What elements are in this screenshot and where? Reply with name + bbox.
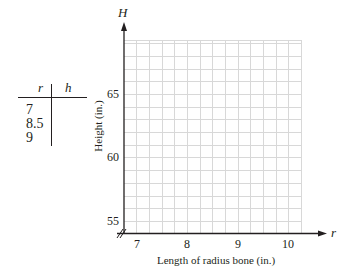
x-tick-9: 9 (235, 237, 241, 252)
y-tick-60: 60 (107, 150, 119, 165)
y-tick-65: 65 (107, 87, 119, 102)
x-axis-variable: r (331, 225, 336, 241)
y-axis-variable: H (118, 5, 127, 21)
x-axis-arrow-icon (318, 231, 327, 237)
x-tick-7: 7 (134, 237, 140, 252)
y-axis-arrow-icon (121, 22, 127, 31)
graph-grid (0, 0, 342, 275)
y-axis-title: Height (in.) (92, 86, 104, 166)
x-axis-title: Length of radius bone (in.) (157, 254, 275, 266)
x-tick-10: 10 (282, 237, 294, 252)
y-tick-55: 55 (107, 214, 119, 229)
x-tick-8: 8 (184, 237, 190, 252)
